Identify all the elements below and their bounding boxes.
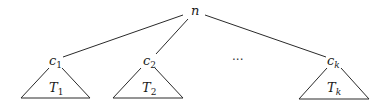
tree-diagram: n c1 c2 ck ··· T1 T2 Tk [0,0,386,108]
subtree-t2: T2 [113,68,183,98]
child-node-c1: c1 [49,53,62,70]
svg-text:ck: ck [327,53,340,70]
child-node-ck: ck [327,53,340,70]
svg-text:T2: T2 [142,80,156,97]
child-node-c2: c2 [143,53,156,70]
ellipsis: ··· [232,53,243,67]
subtree-tk: Tk [299,68,369,99]
svg-text:T1: T1 [49,80,63,97]
edge-root-c2 [156,19,188,54]
root-node-label: n [191,3,199,18]
edge-root-ck [205,15,326,57]
edge-root-c1 [63,15,183,57]
svg-text:c2: c2 [143,53,156,70]
svg-text:Tk: Tk [327,80,341,97]
subtree-t1: T1 [21,68,90,98]
svg-text:c1: c1 [49,53,62,70]
